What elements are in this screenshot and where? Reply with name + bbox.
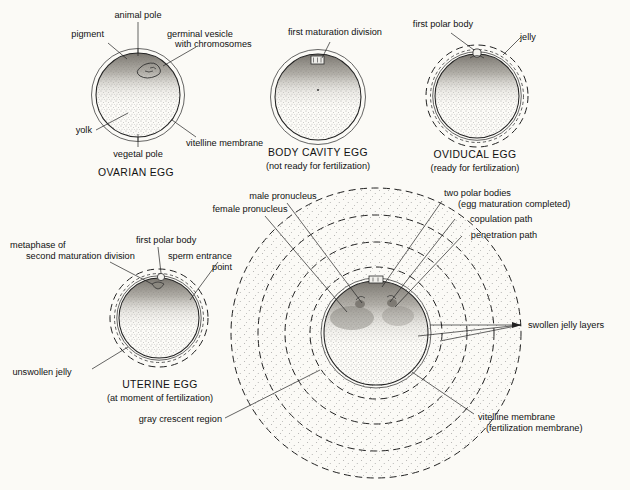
leader-metaphase [110,262,152,284]
label-two-polar-bodies-line1: two polar bodies [444,188,511,198]
label-metaphase-line2: second maturation division [26,251,135,261]
label-germinal-vesicle-chromosomes: with chromosomes [174,39,252,49]
label-vitelline-membrane-line1: vitelline membrane [478,412,555,422]
panel-body-cavity-egg: first maturation division BODY CAVITY EG… [266,27,382,171]
leader-unswollen-jelly [92,347,128,369]
caption-ovarian-egg: OVARIAN EGG [98,167,174,178]
label-animal-pole: animal pole [115,10,162,20]
label-first-maturation-division: first maturation division [288,27,382,37]
label-vitelline-membrane-line2: (fertilization membrane) [486,423,583,433]
label-female-pronucleus: female pronucleus [212,204,287,214]
label-pigment: pigment [71,29,104,39]
label-gray-crescent-region: gray crescent region [139,414,222,424]
leader-germinal-vesicle [163,47,196,66]
egg-maturation-figure: animal pole pigment germinal vesicle wit… [0,0,630,490]
panel-ovarian-egg: animal pole pigment germinal vesicle wit… [71,10,263,178]
first-polar-body-shape [470,49,484,58]
panel-uterine-egg: metaphase of second maturation division … [10,235,232,403]
label-sperm-entrance-line1: sperm entrance [168,251,232,261]
panel-fertilized-egg: male pronucleus female pronucleus two po… [139,188,605,478]
label-jelly: jelly [519,32,536,42]
subcaption-uterine-egg: (at moment of fertilization) [107,393,213,403]
two-polar-bodies-shape [369,276,383,283]
label-two-polar-bodies-line2: (egg maturation completed) [458,199,570,209]
leader-vitelline [172,120,196,137]
label-sperm-entrance-line2: point [212,262,232,272]
label-vitelline-membrane: vitelline membrane [186,138,263,148]
first-polar-body-shape [157,273,164,280]
caption-oviducal-egg: OVIDUCAL EGG [434,149,517,160]
leader-jelly [503,37,521,55]
label-yolk: yolk [76,125,93,135]
label-metaphase-line1: metaphase of [10,240,66,250]
caption-body-cavity-egg: BODY CAVITY EGG [268,147,368,158]
label-vegetal-pole: vegetal pole [113,149,163,159]
label-unswollen-jelly: unswollen jelly [12,367,72,377]
label-penetration-path: penetration path [471,230,537,240]
label-copulation-path: copulation path [470,214,532,224]
subcaption-body-cavity-egg: (not ready for fertilization) [266,161,370,171]
label-germinal-vesicle: germinal vesicle [167,29,233,39]
label-first-polar-body: first polar body [136,235,197,245]
label-male-pronucleus: male pronucleus [249,191,317,201]
label-first-polar-body: first polar body [413,19,474,29]
panel-oviducal-egg: first polar body jelly OVIDUCAL EGG (rea… [413,19,536,173]
label-swollen-jelly-layers: swollen jelly layers [528,320,604,330]
subcaption-oviducal-egg: (ready for fertilization) [431,163,520,173]
caption-uterine-egg: UTERINE EGG [122,379,197,390]
